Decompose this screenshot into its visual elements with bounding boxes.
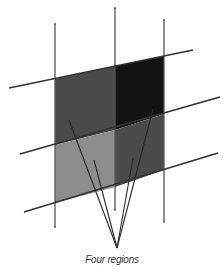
vertical-line-right-bottom-end	[163, 221, 165, 223]
vertical-line-middle-bottom-end	[114, 209, 116, 211]
vertical-line-middle-top-end	[114, 7, 116, 9]
vertical-line-left-bottom-end	[54, 226, 56, 228]
vertical-line-right-top-end	[163, 19, 165, 21]
vertical-line-left-top-end	[54, 23, 56, 25]
four-regions-diagram	[0, 0, 224, 278]
caption-four-regions: Four regions	[0, 254, 224, 265]
